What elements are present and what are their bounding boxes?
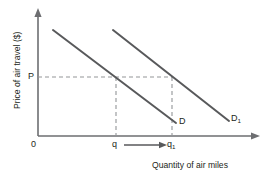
demand-curve-d1-label-base: D xyxy=(231,113,238,123)
y-axis-arrowhead xyxy=(34,8,41,17)
price-level-label: P xyxy=(28,72,34,81)
quantity-new-label-subscript: 1 xyxy=(172,143,175,150)
x-axis-title: Quantity of air miles xyxy=(152,161,228,170)
demand-shift-figure: Price of air travel ($) Quantity of air … xyxy=(0,0,267,179)
diagram-canvas xyxy=(0,0,267,179)
demand-curve-d1-label-subscript: 1 xyxy=(238,117,241,124)
origin-label: 0 xyxy=(31,140,36,149)
quantity-initial-label: q xyxy=(112,140,117,149)
quantity-new-label: q1 xyxy=(167,140,175,149)
x-axis-arrowhead xyxy=(251,132,260,139)
shift-arrow-head xyxy=(159,142,167,148)
demand-curve-d-label: D xyxy=(179,117,186,126)
y-axis-title: Price of air travel ($) xyxy=(13,20,22,120)
demand-curve-d1 xyxy=(113,30,229,121)
demand-curve-d1-label: D1 xyxy=(231,114,241,123)
